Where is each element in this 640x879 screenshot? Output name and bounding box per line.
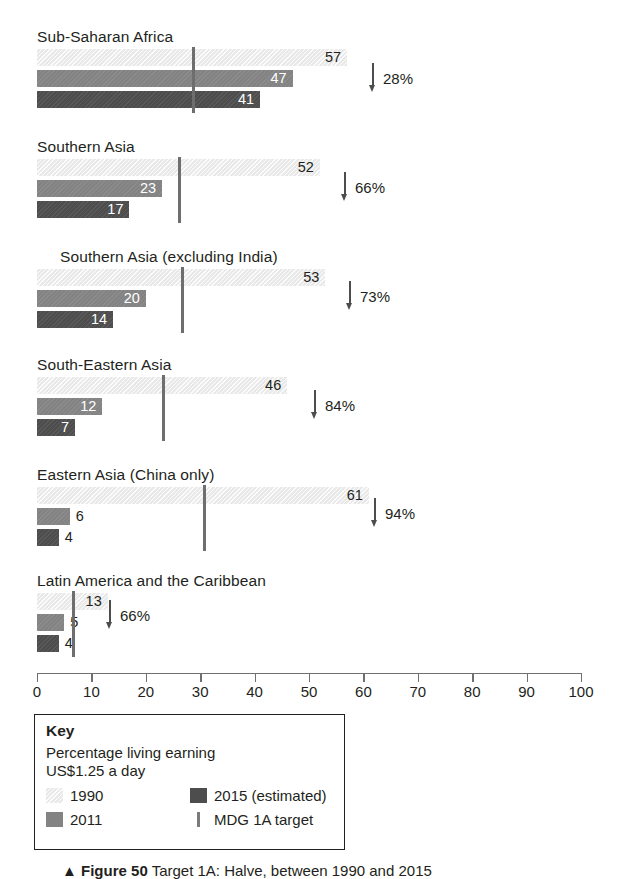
bar-row: 6: [0, 508, 640, 525]
bar-value-label: 47: [263, 70, 287, 87]
bar-value-label: 61: [339, 487, 363, 504]
reduction-annotation: 66%: [105, 600, 150, 630]
reduction-annotation: 66%: [340, 172, 385, 202]
axis-tick: [37, 673, 38, 682]
group-label: Southern Asia (excluding India): [60, 248, 278, 266]
group-bars: 522317: [0, 159, 640, 222]
key-label-mdg-target: MDG 1A target: [214, 811, 313, 828]
axis-tick: [255, 673, 256, 682]
bar-row: 4: [0, 529, 640, 546]
reduction-annotation: 94%: [370, 498, 415, 528]
axis-tick-label: 0: [33, 683, 41, 700]
reduction-annotation: 28%: [368, 63, 413, 93]
reduction-percent-label: 66%: [355, 179, 385, 196]
bar-2011: [37, 70, 293, 87]
group-label: South-Eastern Asia: [37, 356, 172, 374]
axis-tick-label: 60: [355, 683, 372, 700]
bar-value-label: 13: [78, 593, 102, 610]
bar-value-label: 46: [257, 377, 281, 394]
bar-value-label: 53: [295, 269, 319, 286]
swatch-mdg-target-icon: [190, 812, 207, 827]
bar-value-label: 14: [83, 311, 107, 328]
axis-tick: [200, 673, 201, 682]
bar-value-label: 41: [230, 91, 254, 108]
group-bars: 574741: [0, 49, 640, 112]
caption-figure-number: Figure 50: [81, 862, 148, 879]
key-item-2015: 2015 (estimated): [190, 783, 334, 807]
bar-row: 23: [0, 180, 640, 197]
bar-value-label: 57: [317, 49, 341, 66]
group-label: Southern Asia: [37, 138, 135, 156]
arrow-down-icon: [370, 498, 379, 528]
bar-row: 17: [0, 201, 640, 218]
mdg-target-line: [178, 157, 181, 223]
reduction-annotation: 73%: [345, 281, 390, 311]
group-bars: 532014: [0, 269, 640, 332]
bar-row: 57: [0, 49, 640, 66]
key-title: Key: [46, 722, 334, 740]
key-label-2015: 2015 (estimated): [214, 787, 327, 804]
swatch-2011-icon: [46, 812, 63, 827]
key-subtitle-line1: Percentage living earning: [46, 744, 215, 761]
mdg-target-line: [203, 485, 206, 551]
key-item-1990: 1990: [46, 783, 190, 807]
arrow-down-icon: [345, 281, 354, 311]
mdg-target-line: [181, 267, 184, 333]
bar-2015: [37, 91, 260, 108]
key-item-2011: 2011: [46, 807, 190, 831]
arrow-down-icon: [105, 600, 114, 630]
arrow-down-icon: [310, 390, 319, 420]
key-items: 1990 2011 2015 (estimated) MDG 1A target: [46, 783, 334, 831]
key-column-left: 1990 2011: [46, 783, 190, 831]
bar-2011: [37, 508, 70, 525]
axis-tick: [146, 673, 147, 682]
bar-2015: [37, 529, 59, 546]
bar-row: 20: [0, 290, 640, 307]
bar-row: 52: [0, 159, 640, 176]
mdg-target-line: [72, 591, 75, 657]
axis-tick-label: 10: [83, 683, 100, 700]
axis-tick-label: 100: [568, 683, 593, 700]
reduction-percent-label: 66%: [120, 607, 150, 624]
axis-tick: [91, 673, 92, 682]
swatch-1990-icon: [46, 788, 63, 803]
figure-caption: ▲ Figure 50 Target 1A: Halve, between 19…: [62, 862, 640, 879]
bar-value-label: 12: [72, 398, 96, 415]
bar-row: 47: [0, 70, 640, 87]
bar-row: 41: [0, 91, 640, 108]
x-axis: 0102030405060708090100: [0, 663, 640, 709]
reduction-percent-label: 73%: [360, 288, 390, 305]
reduction-percent-label: 28%: [383, 70, 413, 87]
bar-row: 61: [0, 487, 640, 504]
caption-triangle-icon: ▲: [62, 862, 77, 879]
axis-tick-label: 20: [137, 683, 154, 700]
axis-tick: [527, 673, 528, 682]
bar-row: 13: [0, 593, 640, 610]
bar-2015: [37, 635, 59, 652]
bar-row: 14: [0, 311, 640, 328]
mdg-target-line: [162, 375, 165, 441]
bar-value-label: 6: [76, 508, 84, 525]
bar-row: 53: [0, 269, 640, 286]
group-bars: 1354: [0, 593, 640, 656]
arrow-down-icon: [368, 63, 377, 93]
group-label: Eastern Asia (China only): [37, 466, 214, 484]
reduction-percent-label: 84%: [325, 397, 355, 414]
axis-tick-label: 40: [246, 683, 263, 700]
axis-tick: [363, 673, 364, 682]
arrow-down-icon: [340, 172, 349, 202]
axis-tick: [309, 673, 310, 682]
bar-row: 4: [0, 635, 640, 652]
swatch-2015-icon: [190, 788, 207, 803]
bar-row: 7: [0, 419, 640, 436]
bar-value-label: 20: [116, 290, 140, 307]
chart-key: Key Percentage living earning US$1.25 a …: [34, 714, 345, 850]
reduction-percent-label: 94%: [385, 505, 415, 522]
axis-tick: [418, 673, 419, 682]
axis-tick-label: 80: [464, 683, 481, 700]
key-column-right: 2015 (estimated) MDG 1A target: [190, 783, 334, 831]
bar-value-label: 52: [290, 159, 314, 176]
group-label: Sub-Saharan Africa: [37, 28, 173, 46]
axis-tick: [581, 673, 582, 682]
bar-value-label: 7: [45, 419, 69, 436]
